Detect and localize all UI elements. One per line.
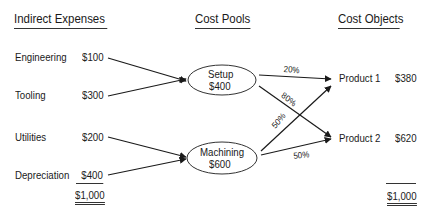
pool-name-machining: Machining: [200, 146, 244, 158]
arrow-depreciation-to-machining: [108, 159, 186, 175]
allocation-diagram: [0, 0, 428, 220]
allocation-machining-to-product-2: 50%: [293, 149, 310, 161]
arrow-utilities-to-machining: [108, 137, 186, 157]
pool-amount-setup: $400: [209, 80, 231, 92]
allocation-setup-to-product-1: 20%: [283, 64, 299, 75]
arrow-engineering-to-setup: [108, 58, 186, 81]
arrow-setup-to-product-2: [259, 86, 331, 137]
arrow-setup-to-product-1: [259, 75, 331, 79]
arrow-tooling-to-setup: [108, 79, 186, 96]
pool-name-setup: Setup: [208, 68, 233, 80]
pool-amount-machining: $600: [209, 158, 231, 170]
